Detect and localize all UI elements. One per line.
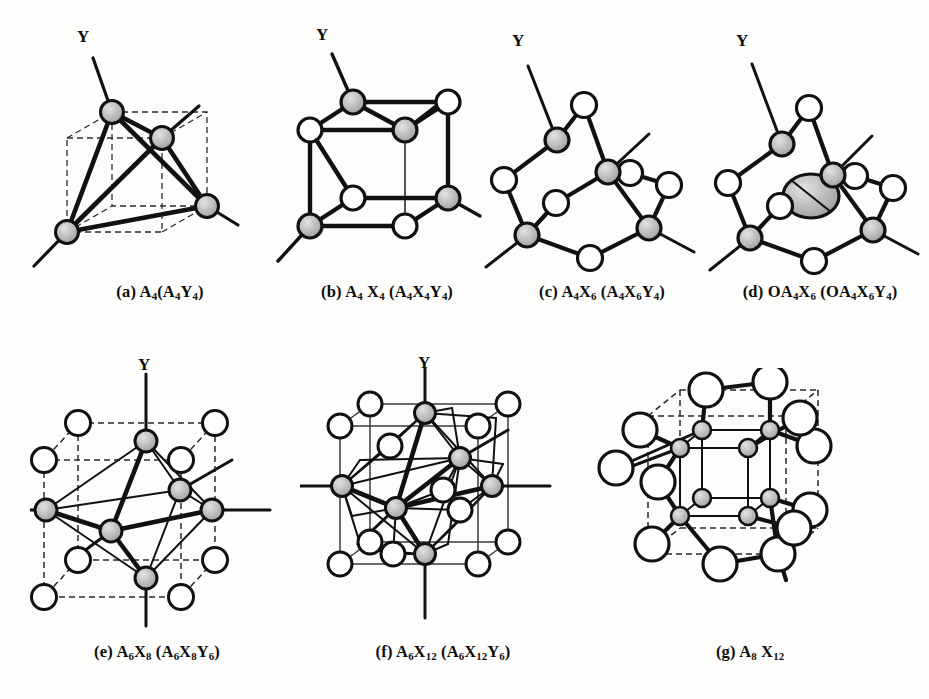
caption-c: (c) A4X6 (A4X6Y4) [492, 284, 712, 302]
caption-e-text: (e) A6X8 (A6X8Y6) [94, 642, 220, 661]
panel-f-diagram [300, 368, 555, 630]
panel-a-diagram [20, 20, 250, 275]
caption-e: (e) A6X8 (A6X8Y6) [42, 644, 272, 662]
caption-f: (f) A6X12 (A6X12Y6) [318, 644, 568, 662]
caption-c-text: (c) A4X6 (A4X6Y4) [539, 282, 665, 301]
caption-d: (d) OA4X6 (OA4X6Y4) [705, 284, 929, 302]
cube-front-edges [310, 102, 448, 226]
panel-f: Y [300, 368, 555, 630]
axis-label-y-e: Y [138, 356, 150, 373]
panel-d-diagram [690, 20, 929, 275]
panel-d: Y [690, 20, 929, 275]
panel-g-diagram [588, 368, 858, 630]
tetrahedron-bonds [67, 112, 207, 232]
panel-e: Y [30, 368, 280, 630]
caption-b-text: (b) A4 X4 (A4X4Y4) [321, 282, 453, 301]
caption-f-text: (f) A6X12 (A6X12Y6) [376, 642, 511, 661]
panel-e-diagram [30, 368, 280, 630]
panel-c-diagram [472, 20, 707, 275]
caption-d-text: (d) OA4X6 (OA4X6Y4) [743, 282, 898, 301]
panel-g [588, 368, 858, 630]
panel-b-diagram [258, 20, 488, 275]
panel-a: Y [20, 20, 250, 275]
axis-label-y-d: Y [736, 32, 748, 49]
caption-b: (b) A4 X4 (A4X4Y4) [272, 284, 502, 302]
a-atoms [515, 128, 661, 247]
panel-b: Y [258, 20, 488, 275]
molecular-cluster-figure: Y (a) A4(A4Y4) [0, 0, 929, 699]
panel-c: Y [472, 20, 707, 275]
caption-a-text: (a) A4(A4Y4) [116, 282, 203, 301]
caption-a: (a) A4(A4Y4) [55, 284, 265, 302]
caption-g-text: (g) A8 X12 [716, 642, 784, 661]
axis-label-y-b: Y [316, 26, 328, 43]
axis-label-y-f: Y [418, 354, 430, 371]
axis-label-y-c: Y [512, 32, 524, 49]
caption-g: (g) A8 X12 [650, 644, 850, 662]
x-atoms [599, 368, 831, 581]
axis-label-y-a: Y [77, 28, 89, 45]
